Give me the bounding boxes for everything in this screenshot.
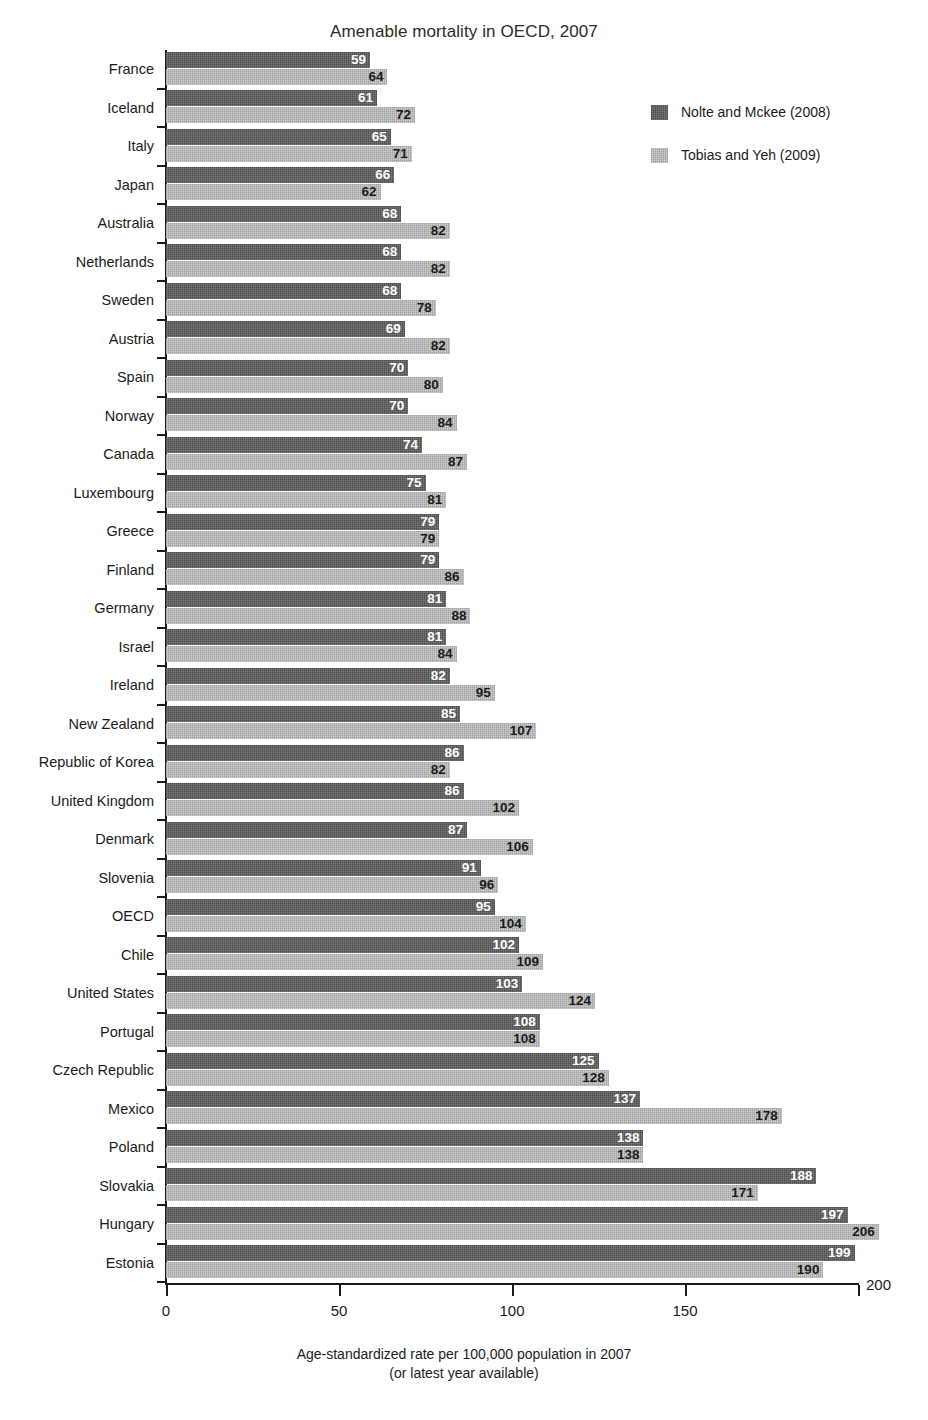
bar-tobias-yeh[interactable]: 102 bbox=[166, 800, 519, 816]
bar-tobias-yeh[interactable]: 82 bbox=[166, 223, 450, 239]
bar-nolte-mckee[interactable]: 125 bbox=[166, 1053, 599, 1069]
bar-tobias-yeh[interactable]: 72 bbox=[166, 107, 415, 123]
bar-tobias-yeh[interactable]: 82 bbox=[166, 338, 450, 354]
bar-nolte-mckee[interactable]: 69 bbox=[166, 321, 405, 337]
bar-tobias-yeh[interactable]: 78 bbox=[166, 300, 436, 316]
category-label: United Kingdom bbox=[51, 793, 154, 809]
category-row: Mexico137178 bbox=[166, 1090, 858, 1129]
bar-tobias-yeh[interactable]: 190 bbox=[166, 1262, 823, 1278]
bar-nolte-mckee[interactable]: 95 bbox=[166, 899, 495, 915]
bar-nolte-mckee[interactable]: 102 bbox=[166, 937, 519, 953]
bar-nolte-mckee[interactable]: 70 bbox=[166, 360, 408, 376]
y-axis-tick bbox=[157, 1166, 166, 1168]
category-row: New Zealand85107 bbox=[166, 705, 858, 744]
bar-nolte-mckee[interactable]: 103 bbox=[166, 976, 522, 992]
bar-nolte-mckee[interactable]: 70 bbox=[166, 398, 408, 414]
bar-tobias-yeh[interactable]: 206 bbox=[166, 1224, 879, 1240]
bar-tobias-yeh[interactable]: 86 bbox=[166, 569, 464, 585]
bar-nolte-mckee[interactable]: 75 bbox=[166, 475, 426, 491]
bar-tobias-yeh[interactable]: 106 bbox=[166, 839, 533, 855]
legend-label: Nolte and Mckee (2008) bbox=[681, 104, 830, 120]
bar-tobias-yeh[interactable]: 82 bbox=[166, 261, 450, 277]
y-axis-tick bbox=[157, 203, 166, 205]
bar-nolte-mckee[interactable]: 59 bbox=[166, 52, 370, 68]
category-label: Canada bbox=[103, 446, 154, 462]
legend-swatch-icon bbox=[651, 105, 668, 120]
bar-nolte-mckee[interactable]: 81 bbox=[166, 591, 446, 607]
x-axis-tick bbox=[512, 1285, 514, 1296]
bar-tobias-yeh[interactable]: 108 bbox=[166, 1031, 540, 1047]
bar-value-label: 102 bbox=[492, 802, 515, 816]
bar-tobias-yeh[interactable]: 128 bbox=[166, 1070, 609, 1086]
bar-nolte-mckee[interactable]: 68 bbox=[166, 244, 401, 260]
bar-nolte-mckee[interactable]: 81 bbox=[166, 629, 446, 645]
bar-nolte-mckee[interactable]: 66 bbox=[166, 167, 394, 183]
category-label: United States bbox=[67, 985, 154, 1001]
category-label: Chile bbox=[121, 947, 154, 963]
y-axis-tick bbox=[157, 242, 166, 244]
legend-swatch-icon bbox=[651, 148, 668, 163]
bar-nolte-mckee[interactable]: 86 bbox=[166, 745, 464, 761]
bar-tobias-yeh[interactable]: 138 bbox=[166, 1147, 643, 1163]
category-label: Iceland bbox=[107, 100, 154, 116]
bar-nolte-mckee[interactable]: 188 bbox=[166, 1168, 816, 1184]
bar-value-label: 106 bbox=[506, 840, 529, 854]
bar-value-label: 95 bbox=[476, 686, 491, 700]
bar-nolte-mckee[interactable]: 85 bbox=[166, 706, 460, 722]
bar-tobias-yeh[interactable]: 109 bbox=[166, 954, 543, 970]
category-row: OECD95104 bbox=[166, 897, 858, 936]
bar-value-label: 128 bbox=[582, 1071, 605, 1085]
bar-tobias-yeh[interactable]: 62 bbox=[166, 184, 381, 200]
bar-nolte-mckee[interactable]: 68 bbox=[166, 206, 401, 222]
bar-nolte-mckee[interactable]: 65 bbox=[166, 129, 391, 145]
bar-nolte-mckee[interactable]: 68 bbox=[166, 283, 401, 299]
bar-tobias-yeh[interactable]: 80 bbox=[166, 377, 443, 393]
y-axis-tick bbox=[157, 819, 166, 821]
category-label: Japan bbox=[114, 177, 154, 193]
legend-item[interactable]: Nolte and Mckee (2008) bbox=[651, 104, 830, 120]
bar-tobias-yeh[interactable]: 171 bbox=[166, 1185, 758, 1201]
bar-value-label: 80 bbox=[424, 378, 439, 392]
bar-nolte-mckee[interactable]: 87 bbox=[166, 822, 467, 838]
bar-tobias-yeh[interactable]: 71 bbox=[166, 146, 412, 162]
category-row: Greece7979 bbox=[166, 512, 858, 551]
bar-tobias-yeh[interactable]: 84 bbox=[166, 646, 457, 662]
bar-nolte-mckee[interactable]: 74 bbox=[166, 437, 422, 453]
category-row: Chile102109 bbox=[166, 936, 858, 975]
bar-tobias-yeh[interactable]: 104 bbox=[166, 916, 526, 932]
bar-tobias-yeh[interactable]: 95 bbox=[166, 685, 495, 701]
bar-nolte-mckee[interactable]: 91 bbox=[166, 860, 481, 876]
bar-tobias-yeh[interactable]: 124 bbox=[166, 993, 595, 1009]
bar-value-label: 71 bbox=[393, 147, 408, 161]
bar-nolte-mckee[interactable]: 82 bbox=[166, 668, 450, 684]
bar-nolte-mckee[interactable]: 61 bbox=[166, 90, 377, 106]
bar-tobias-yeh[interactable]: 87 bbox=[166, 454, 467, 470]
bar-nolte-mckee[interactable]: 79 bbox=[166, 552, 439, 568]
bar-tobias-yeh[interactable]: 82 bbox=[166, 762, 450, 778]
bar-tobias-yeh[interactable]: 84 bbox=[166, 415, 457, 431]
bar-nolte-mckee[interactable]: 79 bbox=[166, 514, 439, 530]
y-axis-tick bbox=[157, 588, 166, 590]
bar-value-label: 91 bbox=[462, 862, 477, 876]
bar-tobias-yeh[interactable]: 96 bbox=[166, 877, 498, 893]
x-axis-tick bbox=[858, 1285, 860, 1296]
category-row: Netherlands6882 bbox=[166, 243, 858, 282]
bar-nolte-mckee[interactable]: 138 bbox=[166, 1130, 643, 1146]
bar-nolte-mckee[interactable]: 86 bbox=[166, 783, 464, 799]
bar-tobias-yeh[interactable]: 79 bbox=[166, 531, 439, 547]
bar-nolte-mckee[interactable]: 199 bbox=[166, 1245, 855, 1261]
bar-tobias-yeh[interactable]: 64 bbox=[166, 69, 387, 85]
category-label: Austria bbox=[109, 331, 154, 347]
legend-item[interactable]: Tobias and Yeh (2009) bbox=[651, 147, 830, 163]
bar-tobias-yeh[interactable]: 81 bbox=[166, 492, 446, 508]
bar-value-label: 64 bbox=[368, 70, 383, 84]
bar-nolte-mckee[interactable]: 137 bbox=[166, 1091, 640, 1107]
bar-tobias-yeh[interactable]: 178 bbox=[166, 1108, 782, 1124]
y-axis-tick bbox=[157, 896, 166, 898]
bar-nolte-mckee[interactable]: 197 bbox=[166, 1207, 848, 1223]
bar-value-label: 86 bbox=[445, 571, 460, 585]
bar-nolte-mckee[interactable]: 108 bbox=[166, 1014, 540, 1030]
bar-tobias-yeh[interactable]: 107 bbox=[166, 723, 536, 739]
x-axis-tick-label: 100 bbox=[499, 1302, 524, 1319]
bar-tobias-yeh[interactable]: 88 bbox=[166, 608, 470, 624]
